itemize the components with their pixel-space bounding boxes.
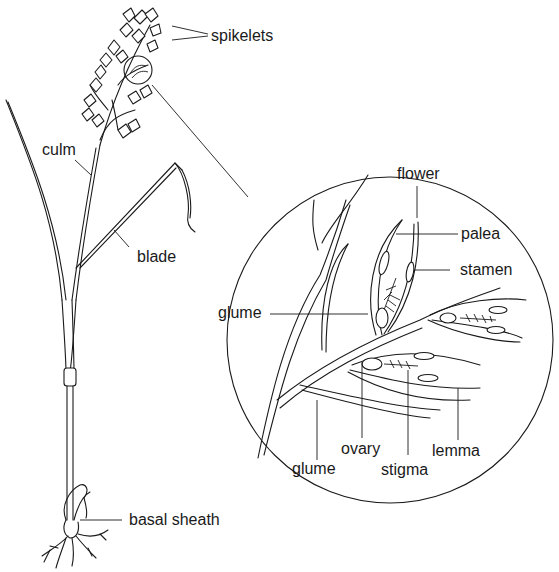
label-flower: flower [397,166,440,182]
label-lemma: lemma [432,443,480,459]
right-floret [428,299,526,342]
grass-plant-drawing [6,8,195,568]
label-blade: blade [137,249,176,265]
label-stigma: stigma [381,462,428,478]
lower-floret [348,353,480,401]
label-basal-sheath: basal sheath [129,512,220,528]
label-spikelets: spikelets [211,28,273,44]
plant-leader-lines [75,26,248,520]
label-glume-upper: glume [218,305,262,321]
magnified-leader-lines [270,186,458,460]
illustration [0,0,559,572]
label-palea: palea [461,226,500,242]
label-stamen: stamen [460,262,512,278]
grass-anatomy-diagram: spikelets culm blade basal sheath flower… [0,0,559,572]
label-glume-lower: glume [292,461,336,477]
label-culm: culm [42,142,76,158]
label-ovary: ovary [341,441,380,457]
upper-floret [371,220,419,335]
magnified-spikelet-view [227,175,553,503]
magnification-circle [227,177,553,503]
